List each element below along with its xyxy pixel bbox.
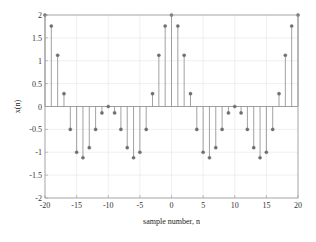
stem-marker xyxy=(265,151,268,154)
stem-marker xyxy=(239,111,242,114)
stem-marker xyxy=(62,92,65,95)
y-tick-label: -0.5 xyxy=(29,125,42,134)
stem-marker xyxy=(132,156,135,159)
stem-marker xyxy=(119,128,122,131)
stem-marker xyxy=(145,128,148,131)
stem-marker xyxy=(252,146,255,149)
stem-marker xyxy=(227,111,230,114)
stem-marker xyxy=(290,24,293,27)
stem-marker xyxy=(75,151,78,154)
stem-marker xyxy=(138,151,141,154)
y-axis-label: x(n) xyxy=(13,100,22,114)
x-tick-label: 15 xyxy=(262,201,270,210)
stem-marker xyxy=(258,156,261,159)
y-tick-label: -1.5 xyxy=(29,171,42,180)
y-tick-label: 0 xyxy=(38,103,42,112)
stem-marker xyxy=(164,24,167,27)
stem-plot: -20-15-10-505101520 21.510.50-0.5-1-1.5-… xyxy=(0,0,316,242)
stem-marker xyxy=(271,128,274,131)
stem-marker xyxy=(202,151,205,154)
stem-marker xyxy=(94,128,97,131)
stem-marker xyxy=(277,92,280,95)
stem-marker xyxy=(107,105,110,108)
stem-marker xyxy=(233,105,236,108)
x-tick-label: -5 xyxy=(137,201,144,210)
x-tick-label: 5 xyxy=(201,201,205,210)
stem-marker xyxy=(56,54,59,57)
x-tick-label: 0 xyxy=(170,201,174,210)
y-tick-label: -1 xyxy=(35,148,42,157)
x-tick-label: 20 xyxy=(294,201,302,210)
stem-marker xyxy=(100,111,103,114)
stem-marker xyxy=(69,128,72,131)
stem-marker xyxy=(183,54,186,57)
x-tick-label: 10 xyxy=(231,201,239,210)
stem-marker xyxy=(221,128,224,131)
stem-marker xyxy=(81,156,84,159)
y-tick-label: 1.5 xyxy=(32,34,42,43)
x-axis-ticks: -20-15-10-505101520 xyxy=(40,195,302,210)
stem-marker xyxy=(113,111,116,114)
stem-marker xyxy=(151,92,154,95)
x-tick-label: -15 xyxy=(71,201,82,210)
y-tick-label: 1 xyxy=(38,57,42,66)
y-tick-label: 2 xyxy=(38,11,42,20)
stem-marker xyxy=(284,54,287,57)
y-tick-label: 0.5 xyxy=(32,80,42,89)
stem-marker xyxy=(50,24,53,27)
stem-marker xyxy=(208,156,211,159)
stem-marker xyxy=(246,128,249,131)
y-tick-label: -2 xyxy=(35,194,42,203)
x-axis-label: sample number, n xyxy=(143,217,200,226)
stem-marker xyxy=(176,24,179,27)
x-tick-label: -10 xyxy=(103,201,114,210)
stem-marker xyxy=(195,128,198,131)
stem-marker xyxy=(126,146,129,149)
stem-marker xyxy=(157,54,160,57)
stem-marker xyxy=(189,92,192,95)
stem-marker xyxy=(214,146,217,149)
stem-marker xyxy=(88,146,91,149)
